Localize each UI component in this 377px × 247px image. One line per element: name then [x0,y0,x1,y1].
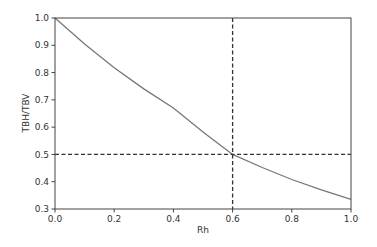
chart: 0.00.20.40.60.81.00.30.40.50.60.70.80.91… [0,0,377,247]
y-tick-label: 0.6 [35,122,50,132]
y-tick-label: 0.9 [35,40,50,50]
y-tick-label: 1.0 [35,13,50,23]
y-tick-label: 0.7 [35,95,49,105]
axes: 0.00.20.40.60.81.00.30.40.50.60.70.80.91… [35,13,359,224]
plot-area [55,18,351,209]
x-tick-label: 0.8 [285,214,300,224]
y-tick-label: 0.8 [35,68,50,78]
x-tick-label: 1.0 [344,214,359,224]
y-tick-label: 0.4 [35,177,50,187]
x-tick-label: 0.0 [48,214,63,224]
y-tick-label: 0.5 [35,150,49,160]
x-tick-label: 0.2 [107,214,121,224]
data-line [55,18,351,199]
y-axis-label: TBH/TBV [21,93,31,134]
y-tick-label: 0.3 [35,204,49,214]
x-tick-label: 0.4 [166,214,181,224]
x-axis-label: Rh [197,225,209,235]
x-tick-label: 0.6 [225,214,240,224]
plot-frame [55,18,351,209]
